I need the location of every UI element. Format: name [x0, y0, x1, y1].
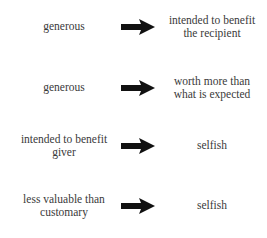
mapping-row: generous worth more than what is expecte…	[0, 68, 267, 108]
source-text: intended to benefit giver	[14, 133, 114, 160]
mapping-row: intended to benefit giver selfish	[0, 126, 267, 166]
mapping-row: generous intended to benefit the recipie…	[0, 7, 267, 47]
target-text: selfish	[197, 139, 227, 153]
target-term: selfish	[152, 126, 267, 166]
source-term: generous	[0, 7, 128, 47]
mapping-row: less valuable than customary selfish	[0, 186, 267, 226]
right-arrow-icon	[121, 198, 155, 214]
target-term: intended to benefit the recipient	[152, 7, 267, 47]
source-term: less valuable than customary	[0, 186, 128, 226]
target-term: worth more than what is expected	[152, 68, 267, 108]
source-term: generous	[0, 68, 128, 108]
target-term: selfish	[152, 186, 267, 226]
right-arrow-icon	[121, 138, 155, 154]
target-text: selfish	[197, 199, 227, 213]
target-text: intended to benefit the recipient	[163, 14, 261, 41]
source-text: generous	[43, 81, 85, 95]
source-text: less valuable than customary	[14, 193, 114, 220]
right-arrow-icon	[121, 80, 155, 96]
target-text: worth more than what is expected	[167, 75, 257, 102]
source-term: intended to benefit giver	[0, 126, 128, 166]
right-arrow-icon	[121, 19, 155, 35]
source-text: generous	[43, 20, 85, 34]
